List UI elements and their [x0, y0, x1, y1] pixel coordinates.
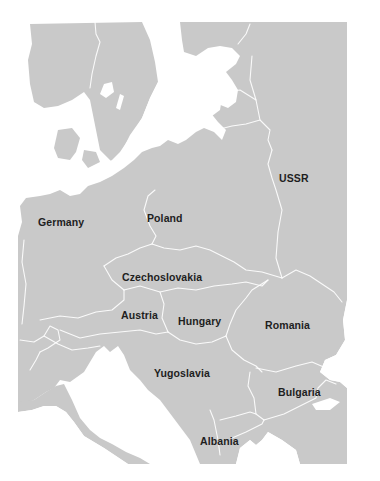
label-bulgaria: Bulgaria — [278, 386, 321, 398]
label-germany: Germany — [38, 216, 84, 228]
label-poland: Poland — [147, 212, 183, 224]
label-ussr: USSR — [279, 172, 309, 184]
label-albania: Albania — [200, 435, 239, 447]
label-yugoslavia: Yugoslavia — [154, 367, 210, 379]
map-canvas — [0, 0, 380, 481]
label-hungary: Hungary — [178, 315, 221, 327]
label-romania: Romania — [265, 319, 310, 331]
label-austria: Austria — [121, 309, 158, 321]
label-czechoslovakia: Czechoslovakia — [122, 271, 202, 283]
